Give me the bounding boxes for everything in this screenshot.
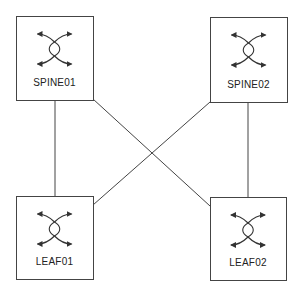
node-leaf01[interactable]: LEAF01 (17, 197, 94, 280)
node-spine01[interactable]: SPINE01 (17, 17, 94, 101)
node-label: SPINE01 (33, 77, 76, 88)
node-label: LEAF01 (36, 256, 74, 267)
node-box[interactable] (211, 198, 287, 281)
node-box[interactable] (17, 197, 94, 280)
network-topology-diagram: SPINE01SPINE02LEAF01LEAF02 (0, 0, 302, 294)
node-label: LEAF02 (229, 257, 267, 268)
node-spine02[interactable]: SPINE02 (211, 18, 288, 103)
node-label: SPINE02 (227, 79, 270, 90)
node-leaf02[interactable]: LEAF02 (211, 198, 287, 281)
links-layer (55, 99, 248, 206)
nodes-layer: SPINE01SPINE02LEAF01LEAF02 (17, 17, 288, 281)
